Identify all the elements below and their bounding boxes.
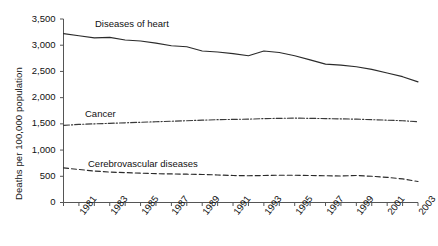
axis-lines <box>64 19 419 203</box>
series-line <box>64 34 419 82</box>
y-axis-ticks <box>60 19 64 203</box>
y-axis-tick-label: 2,000 <box>0 91 56 102</box>
series-label: Cancer <box>85 108 116 119</box>
series-line <box>64 168 419 182</box>
y-axis-tick-label: 1,500 <box>0 117 56 128</box>
y-axis-tick-label: 0 <box>0 196 56 207</box>
y-axis-tick-label: 2,500 <box>0 65 56 76</box>
series-label: Diseases of heart <box>95 18 169 29</box>
series-line <box>64 118 419 125</box>
series-label: Cerebrovascular diseases <box>88 158 198 169</box>
y-axis-tick-label: 3,000 <box>0 39 56 50</box>
y-axis-tick-label: 1,000 <box>0 144 56 155</box>
y-axis-tick-label: 500 <box>0 170 56 181</box>
y-axis-tick-label: 3,500 <box>0 13 56 24</box>
